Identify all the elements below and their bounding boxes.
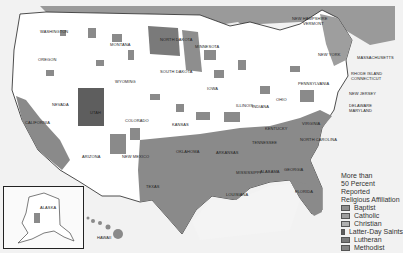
swatch-latter-day-saints — [341, 229, 345, 235]
map-label-arkansas: ARKANSAS — [216, 151, 239, 156]
legend-title-line-2: 50 Percent Reported — [341, 180, 403, 196]
map-label-georgia: GEORGIA — [284, 168, 303, 173]
swatch-lutheran — [341, 237, 350, 243]
map-label-new-mexico: NEW MEXICO — [122, 155, 149, 160]
alaska-shape — [4, 187, 83, 248]
legend-label: Methodist — [354, 244, 384, 252]
legend-label: Latter-Day Saints — [349, 228, 403, 236]
legend-item-christian: Christian — [341, 220, 403, 228]
map-label-north-carolina: NORTH CAROLINA — [300, 138, 337, 143]
map-label-montana: MONTANA — [110, 43, 130, 48]
map-label-tennessee: TENNESSEE — [252, 141, 277, 146]
map-label-vermont: VERMONT — [303, 22, 324, 27]
legend-item-catholic: Catholic — [341, 212, 403, 220]
legend-title-line-1: More than — [341, 172, 403, 180]
legend-label: Christian — [354, 220, 382, 228]
map-label-connecticut: CONNECTICUT — [351, 77, 381, 82]
map-label-minnesota: MINNESOTA — [195, 45, 219, 50]
map-label-alabama: ALABAMA — [260, 170, 280, 175]
map-label-north-dakota: NORTH DAKOTA — [160, 38, 193, 43]
map-label-oklahoma: OKLAHOMA — [176, 150, 199, 155]
legend-title-line-3: Religious Affiliation — [341, 196, 403, 204]
map-label-wyoming: WYOMING — [115, 80, 136, 85]
map-label-louisiana: LOUISIANA — [226, 193, 248, 198]
map-label-massachusetts: MASSACHUSETTS — [357, 56, 394, 61]
map-label-indiana: INDIANA — [252, 105, 269, 110]
legend-item-methodist: Methodist — [341, 244, 403, 252]
swatch-baptist — [341, 205, 350, 211]
map-label-texas: TEXAS — [146, 185, 160, 190]
map-label-pennsylvania: PENNSYLVANIA — [298, 82, 329, 87]
swatch-methodist — [341, 245, 350, 251]
map-label-arizona: ARIZONA — [82, 155, 100, 160]
legend-label: Catholic — [354, 212, 379, 220]
swatch-catholic — [341, 213, 350, 219]
map-label-colorado: COLORADO — [125, 119, 149, 124]
legend-item-latter-day-saints: Latter-Day Saints — [341, 228, 403, 236]
map-label-oregon: OREGON — [38, 58, 56, 63]
map-label-nevada: NEVADA — [52, 103, 69, 108]
legend-item-baptist: Baptist — [341, 204, 403, 212]
map-label-new-york: NEW YORK — [318, 53, 341, 58]
swatch-christian — [341, 221, 350, 227]
map-label-kansas: KANSAS — [172, 123, 189, 128]
map-label-florida: FLORIDA — [295, 190, 313, 195]
map-label-illinois: ILLINOIS — [236, 104, 253, 109]
map-label-maryland: MARYLAND — [349, 109, 372, 114]
legend-label: Baptist — [354, 204, 375, 212]
legend-label: Lutheran — [354, 236, 382, 244]
map-label-kentucky: KENTUCKY — [265, 127, 288, 132]
map-label-hawaii: HAWAII — [97, 236, 112, 241]
legend-item-lutheran: Lutheran — [341, 236, 403, 244]
map-label-washington: WASHINGTON — [40, 30, 68, 35]
map-label-iowa: IOWA — [207, 87, 218, 92]
map-label-ohio: OHIO — [276, 98, 287, 103]
map-label-utah: UTAH — [90, 111, 101, 116]
shaded-utah — [78, 88, 104, 126]
map-label-california: CALIFORNIA — [25, 121, 50, 126]
map-label-south-dakota: SOUTH DAKOTA — [160, 70, 192, 75]
map-label-virginia: VIRGINIA — [302, 122, 320, 127]
map-label-mississippi: MISSISSIPPI — [236, 171, 261, 176]
map-label-alaska: ALASKA — [40, 206, 56, 211]
map-label-new-jersey: NEW JERSEY — [349, 92, 376, 97]
legend: More than 50 Percent Reported Religious … — [341, 172, 403, 252]
alaska-inset — [3, 186, 84, 249]
